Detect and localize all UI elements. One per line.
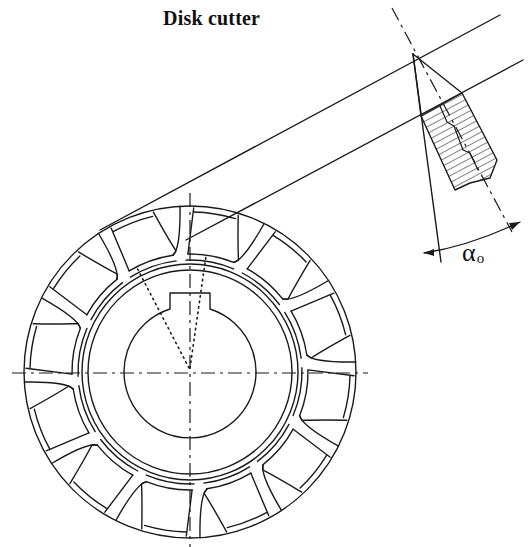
disk-cutter-drawing [0, 0, 531, 547]
clearance-angle-label: αo [462, 240, 483, 266]
arrowhead-left [424, 249, 434, 256]
tool-clearance-edge [413, 54, 421, 116]
alpha-symbol: α [462, 238, 476, 267]
alpha-subscript: o [477, 250, 485, 266]
dotted-radial-right [190, 256, 206, 368]
tool-hatched-section [421, 93, 497, 190]
tool-detail [413, 54, 520, 262]
